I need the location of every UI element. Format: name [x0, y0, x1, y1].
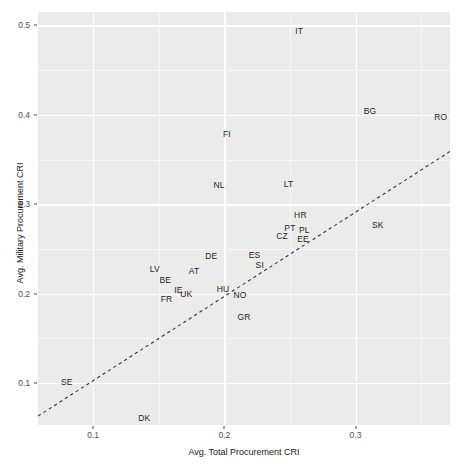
- y-tick-label: 0.5: [0, 20, 30, 30]
- x-tick-label: 0.3: [350, 430, 362, 440]
- y-tick-mark: [34, 25, 37, 26]
- y-tick-label: 0.1: [0, 378, 30, 388]
- gridline-y-major: [38, 383, 450, 384]
- data-point-label: SK: [372, 221, 384, 230]
- data-point-label: DE: [205, 252, 217, 261]
- data-point-label: AT: [189, 267, 200, 276]
- data-point-label: FI: [223, 130, 231, 139]
- gridline-y-major: [38, 204, 450, 205]
- x-tick-mark: [93, 426, 94, 429]
- x-tick-label: 0.2: [218, 430, 230, 440]
- gridline-y-minor: [38, 338, 450, 339]
- data-point-label: GR: [237, 313, 250, 322]
- data-point-label: UK: [180, 290, 192, 299]
- gridline-x-major: [93, 12, 94, 425]
- data-point-label: LT: [284, 179, 294, 188]
- y-tick-mark: [34, 114, 37, 115]
- data-point-label: EE: [297, 235, 309, 244]
- gridline-x-major: [356, 12, 357, 425]
- x-tick-mark: [355, 426, 356, 429]
- x-axis-label: Avg. Total Procurement CRI: [38, 447, 450, 457]
- plot-panel: ITBGROFINLLTHRSKPTPLCZEEESDESIATLVBEHUIE…: [38, 12, 450, 425]
- gridline-x-minor: [421, 12, 422, 425]
- x-tick-mark: [224, 426, 225, 429]
- gridline-y-minor: [38, 160, 450, 161]
- data-point-label: HU: [217, 285, 230, 294]
- data-point-label: CZ: [276, 232, 288, 241]
- gridline-y-major: [38, 25, 450, 26]
- data-point-label: RO: [434, 113, 447, 122]
- data-point-label: BG: [364, 107, 377, 116]
- reference-line: [38, 12, 450, 425]
- data-point-label: ES: [249, 251, 261, 260]
- scatter-plot-figure: ITBGROFINLLTHRSKPTPLCZEEESDESIATLVBEHUIE…: [0, 0, 459, 467]
- data-point-label: LV: [150, 265, 160, 274]
- y-tick-mark: [34, 204, 37, 205]
- gridline-x-major: [224, 12, 225, 425]
- y-tick-mark: [34, 293, 37, 294]
- x-tick-label: 0.1: [87, 430, 99, 440]
- data-point-label: BE: [159, 276, 171, 285]
- data-point-label: DK: [138, 414, 150, 423]
- data-point-label: SE: [61, 378, 73, 387]
- gridline-y-minor: [38, 249, 450, 250]
- data-point-label: NL: [213, 180, 224, 189]
- gridline-y-minor: [38, 70, 450, 71]
- data-point-label: NO: [234, 291, 247, 300]
- gridline-x-minor: [159, 12, 160, 425]
- y-tick-mark: [34, 382, 37, 383]
- data-point-label: SI: [256, 261, 264, 270]
- y-axis-label: Avg. Military Procurement CRI: [15, 113, 25, 333]
- data-point-label: FR: [161, 295, 173, 304]
- reference-line-segment: [38, 151, 450, 416]
- data-point-label: IT: [295, 27, 303, 36]
- gridline-y-major: [38, 115, 450, 116]
- gridline-x-minor: [290, 12, 291, 425]
- data-point-label: HR: [294, 211, 307, 220]
